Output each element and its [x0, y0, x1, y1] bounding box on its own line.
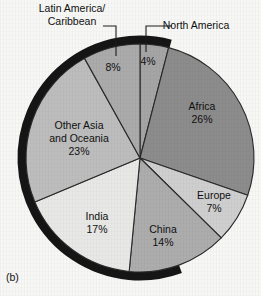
figure-caption: (b)	[6, 271, 19, 283]
figure-container: North America4%Africa26%Europe7%China14%…	[0, 0, 261, 296]
slice-label-latin-america-caribbean: Latin America/Caribbean	[39, 1, 106, 26]
pie-chart: North America4%Africa26%Europe7%China14%…	[0, 0, 261, 296]
pie-slices	[26, 44, 254, 272]
slice-label-north-america: North America	[163, 19, 230, 31]
slice-label-china: China14%	[149, 222, 177, 247]
slice-label-africa: Africa26%	[189, 99, 216, 124]
slice-percent-latin-america-caribbean: 8%	[105, 61, 120, 73]
slice-percent-north-america: 4%	[140, 55, 155, 67]
slice-label-india: India17%	[86, 209, 109, 234]
